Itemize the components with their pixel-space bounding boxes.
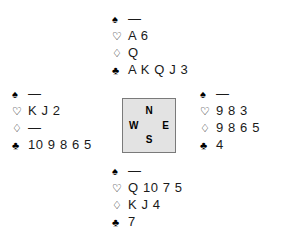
west-spade-holding: — [28, 85, 41, 102]
north-heart-holding: A 6 [128, 27, 149, 44]
club-icon: ♣ [12, 137, 28, 154]
heart-icon: ♡ [112, 28, 128, 45]
west-heart-row: ♡ K J 2 [12, 102, 92, 119]
compass-south-label: S [123, 135, 175, 145]
hand-east: ♠ — ♡ 9 8 3 ♢ 9 8 6 5 ♣ 4 [200, 85, 260, 153]
north-diamond-row: ♢ Q [112, 44, 188, 61]
hand-north: ♠ — ♡ A 6 ♢ Q ♣ A K Q J 3 [112, 10, 188, 78]
heart-icon: ♡ [112, 180, 128, 197]
north-club-row: ♣ A K Q J 3 [112, 61, 188, 78]
south-diamond-holding: K J 4 [128, 196, 161, 213]
diamond-icon: ♢ [12, 120, 28, 137]
west-diamond-holding: — [28, 119, 41, 136]
south-club-holding: 7 [128, 213, 136, 230]
diamond-icon: ♢ [112, 45, 128, 62]
club-icon: ♣ [200, 137, 216, 154]
east-diamond-holding: 9 8 6 5 [216, 119, 260, 136]
hand-west: ♠ — ♡ K J 2 ♢ — ♣ 10 9 8 6 5 [12, 85, 92, 153]
north-diamond-holding: Q [128, 44, 139, 61]
hand-south: ♠ — ♡ Q 10 7 5 ♢ K J 4 ♣ 7 [112, 162, 183, 230]
south-heart-row: ♡ Q 10 7 5 [112, 179, 183, 196]
club-icon: ♣ [112, 62, 128, 79]
east-club-row: ♣ 4 [200, 136, 260, 153]
south-club-row: ♣ 7 [112, 213, 183, 230]
north-heart-row: ♡ A 6 [112, 27, 188, 44]
south-spade-row: ♠ — [112, 162, 183, 179]
south-spade-holding: — [128, 162, 141, 179]
west-club-row: ♣ 10 9 8 6 5 [12, 136, 92, 153]
heart-icon: ♡ [12, 103, 28, 120]
east-spade-holding: — [216, 85, 229, 102]
east-spade-row: ♠ — [200, 85, 260, 102]
west-spade-row: ♠ — [12, 85, 92, 102]
east-club-holding: 4 [216, 136, 224, 153]
west-heart-holding: K J 2 [28, 102, 61, 119]
east-heart-row: ♡ 9 8 3 [200, 102, 260, 119]
heart-icon: ♡ [200, 103, 216, 120]
south-heart-holding: Q 10 7 5 [128, 179, 183, 196]
spade-icon: ♠ [112, 163, 128, 180]
spade-icon: ♠ [200, 86, 216, 103]
compass-box: N W E S [122, 98, 176, 153]
east-heart-holding: 9 8 3 [216, 102, 248, 119]
west-diamond-row: ♢ — [12, 119, 92, 136]
east-diamond-row: ♢ 9 8 6 5 [200, 119, 260, 136]
diamond-icon: ♢ [200, 120, 216, 137]
south-diamond-row: ♢ K J 4 [112, 196, 183, 213]
club-icon: ♣ [112, 214, 128, 231]
spade-icon: ♠ [112, 11, 128, 28]
north-club-holding: A K Q J 3 [128, 61, 188, 78]
diamond-icon: ♢ [112, 197, 128, 214]
north-spade-holding: — [128, 10, 141, 27]
north-spade-row: ♠ — [112, 10, 188, 27]
spade-icon: ♠ [12, 86, 28, 103]
bridge-deal-diagram: ♠ — ♡ A 6 ♢ Q ♣ A K Q J 3 ♠ — ♡ K J 2 ♢ … [0, 0, 300, 245]
west-club-holding: 10 9 8 6 5 [28, 136, 92, 153]
